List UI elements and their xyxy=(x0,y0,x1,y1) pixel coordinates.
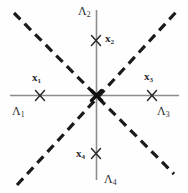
figure-container: x1 x2 x3 x4 Λ1 Λ2 Λ3 Λ4 xyxy=(0,0,188,193)
axis-label-lambda4: Λ4 xyxy=(104,173,117,187)
figure-canvas xyxy=(0,0,188,193)
axis-label-lambda2: Λ2 xyxy=(78,5,91,19)
point-label-x2: x2 xyxy=(105,33,114,46)
point-label-x4: x4 xyxy=(76,148,85,161)
axis-label-lambda3: Λ3 xyxy=(157,105,170,119)
point-label-x3: x3 xyxy=(144,71,153,84)
axis-label-lambda1: Λ1 xyxy=(12,105,25,119)
point-label-x1: x1 xyxy=(32,72,41,85)
